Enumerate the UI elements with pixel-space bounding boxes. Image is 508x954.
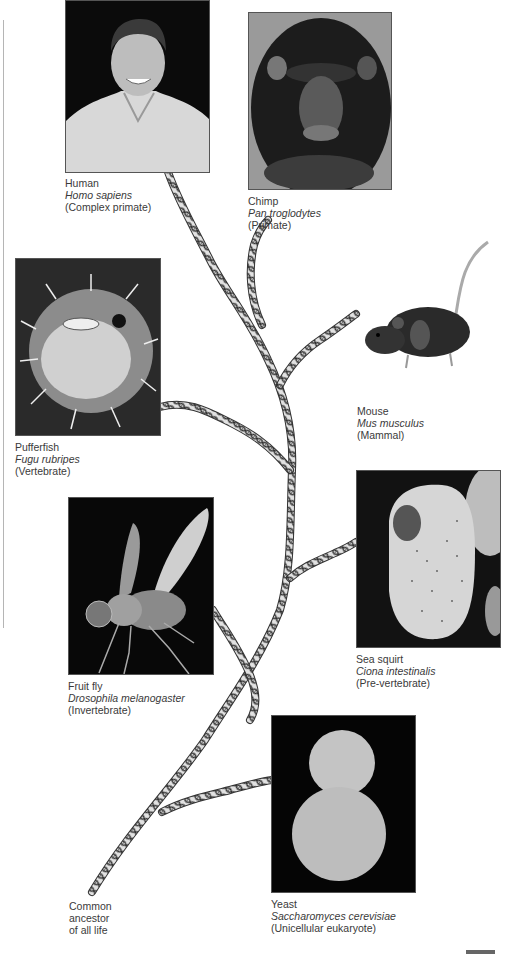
yeast-photo — [271, 715, 416, 893]
seasquirt-icon — [357, 471, 500, 647]
mouse-common-name: Mouse — [357, 405, 424, 417]
yeast-icon — [272, 716, 415, 892]
chimp-classification: (Primate) — [248, 219, 321, 231]
fruitfly-classification: (Invertebrate) — [68, 704, 185, 716]
pufferfish-common-name: Pufferfish — [15, 441, 80, 453]
pufferfish-scientific-name: Fugu rubripes — [15, 453, 80, 465]
pufferfish-caption: Pufferfish Fugu rubripes (Vertebrate) — [15, 441, 80, 477]
root-line-3: of all life — [69, 924, 112, 936]
mouse-classification: (Mammal) — [357, 429, 424, 441]
chimp-photo — [248, 12, 392, 190]
mouse-scientific-name: Mus musculus — [357, 417, 424, 429]
fruitfly-scientific-name: Drosophila melanogaster — [68, 692, 185, 704]
chimp-scientific-name: Pan troglodytes — [248, 207, 321, 219]
root-line-1: Common — [69, 900, 112, 912]
yeast-caption: Yeast Saccharomyces cerevisiae (Unicellu… — [271, 898, 396, 934]
seasquirt-common-name: Sea squirt — [356, 653, 435, 665]
seasquirt-caption: Sea squirt Ciona intestinalis (Pre-verte… — [356, 653, 435, 689]
human-common-name: Human — [65, 177, 151, 189]
mouse-icon — [360, 240, 500, 375]
seasquirt-classification: (Pre-vertebrate) — [356, 677, 435, 689]
fruitfly-caption: Fruit fly Drosophila melanogaster (Inver… — [68, 680, 185, 716]
seasquirt-photo — [356, 470, 501, 648]
branch-pufferfish — [160, 405, 290, 470]
yeast-common-name: Yeast — [271, 898, 396, 910]
page-corner-marker — [466, 950, 495, 954]
branch-fruitfly — [213, 610, 255, 720]
seasquirt-scientific-name: Ciona intestinalis — [356, 665, 435, 677]
fruitfly-photo — [68, 497, 214, 675]
pufferfish-classification: (Vertebrate) — [15, 465, 80, 477]
mouse-caption: Mouse Mus musculus (Mammal) — [357, 405, 424, 441]
chimp-caption: Chimp Pan troglodytes (Primate) — [248, 195, 321, 231]
chimp-common-name: Chimp — [248, 195, 321, 207]
human-portrait-icon — [66, 1, 209, 172]
pufferfish-icon — [16, 259, 160, 435]
fruitfly-icon — [69, 498, 213, 674]
human-classification: (Complex primate) — [65, 201, 151, 213]
fruitfly-common-name: Fruit fly — [68, 680, 185, 692]
yeast-classification: (Unicellular eukaryote) — [271, 922, 396, 934]
human-photo — [65, 0, 210, 173]
pufferfish-photo — [15, 258, 161, 436]
root-line-2: ancestor — [69, 912, 112, 924]
common-ancestor-caption: Common ancestor of all life — [69, 900, 112, 936]
chimp-portrait-icon — [249, 13, 391, 189]
yeast-scientific-name: Saccharomyces cerevisiae — [271, 910, 396, 922]
human-caption: Human Homo sapiens (Complex primate) — [65, 177, 151, 213]
human-scientific-name: Homo sapiens — [65, 189, 151, 201]
